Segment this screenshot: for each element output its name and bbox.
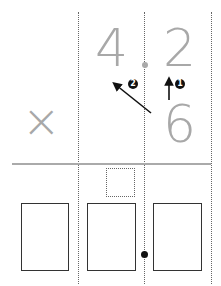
answer-box-ones[interactable]: [153, 203, 202, 271]
step-2-badge: 2: [128, 79, 138, 89]
result-line: [12, 163, 211, 165]
answer-box-tens[interactable]: [87, 203, 136, 271]
answer-decimal-point: [141, 251, 148, 258]
arrow-step-2-icon: [116, 85, 151, 113]
carry-box[interactable]: [106, 168, 135, 197]
answer-box-hundreds[interactable]: [21, 203, 69, 271]
step-1-badge: 1: [175, 79, 185, 89]
